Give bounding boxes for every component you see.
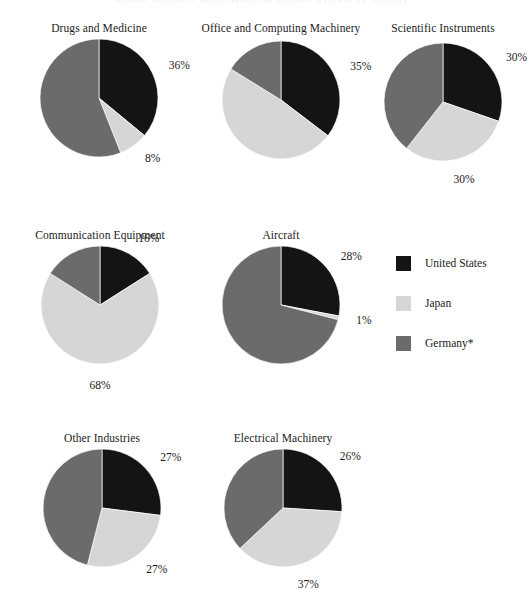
slice-value-label: 1% <box>356 314 371 326</box>
legend-item-germany[interactable]: Germany* <box>396 332 520 372</box>
panel-title: Electrical Machinery <box>163 432 403 445</box>
slice-value-label: 26% <box>340 450 361 462</box>
slice-value-label: 30% <box>448 173 480 185</box>
panel-title: Scientific Instruments <box>323 22 532 35</box>
slice-value-label: 27% <box>160 451 181 463</box>
legend-swatch-icon <box>396 256 411 271</box>
legend-swatch-icon <box>396 296 411 311</box>
chart-legend: United StatesJapanGermany* <box>396 252 520 372</box>
pie-graphic <box>382 41 504 163</box>
pie-slice-united-states <box>102 449 161 515</box>
legend-item-japan[interactable]: Japan <box>396 292 520 332</box>
legend-label: Germany* <box>425 334 474 352</box>
pie-graphic <box>222 447 344 569</box>
slice-value-label: 28% <box>341 250 362 262</box>
slice-value-label: 16% <box>138 232 159 244</box>
pie-graphic <box>38 37 160 159</box>
legend-item-united-states[interactable]: United States <box>396 252 520 292</box>
slice-value-label: 8% <box>145 152 160 164</box>
pie-slice-united-states <box>283 449 342 512</box>
slice-value-label: 35% <box>350 60 371 72</box>
slice-value-label: 36% <box>169 59 190 71</box>
pie-graphic <box>39 244 161 366</box>
cut-off-figure-header: Figure: Shares of World High-Technology … <box>0 0 524 3</box>
slice-value-label: 37% <box>292 578 324 590</box>
pie-slice-united-states <box>281 246 340 316</box>
legend-label: Japan <box>425 294 451 312</box>
slice-value-label: 30% <box>506 51 527 63</box>
legend-label: United States <box>425 254 487 272</box>
pie-graphic <box>41 447 163 569</box>
slice-value-label: 68% <box>84 379 116 391</box>
panel-title: Aircraft <box>161 229 401 242</box>
pie-graphic <box>220 244 342 366</box>
slice-value-label: 27% <box>146 563 167 575</box>
legend-swatch-icon <box>396 336 411 351</box>
pie-graphic <box>220 39 342 161</box>
